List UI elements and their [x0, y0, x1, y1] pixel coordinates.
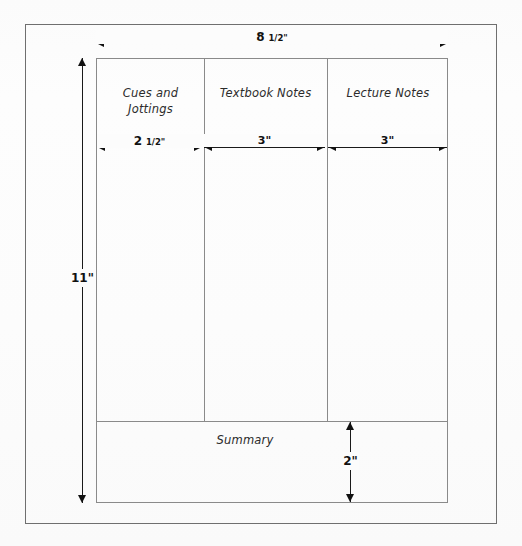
dimension-column-1-width: 2 1/2"	[97, 143, 202, 152]
arrowhead-down-icon	[346, 494, 354, 502]
dimension-label-column-3: 3"	[328, 134, 447, 147]
note-sheet: Cues and Jottings Textbook Notes Lecture…	[96, 58, 448, 503]
column-label-textbook-line-1: Textbook Notes	[204, 85, 327, 101]
dimension-summary-height: 2"	[346, 422, 355, 502]
dimension-whole: 8	[256, 30, 264, 44]
arrowhead-down-icon	[78, 495, 86, 503]
dimension-label-page-height: 11"	[70, 269, 95, 287]
column-label-cues: Cues and Jottings	[97, 85, 204, 117]
dimension-column-3-width: 3"	[328, 143, 447, 152]
column-divider-2	[327, 59, 328, 421]
summary-divider	[97, 421, 447, 422]
column-divider-1	[204, 59, 205, 421]
dimension-line	[204, 147, 325, 148]
dimension-page-width: 8 1/2"	[96, 39, 448, 48]
dimension-page-height: 11"	[78, 58, 87, 503]
dimension-column-2-width: 3"	[204, 143, 325, 152]
arrowhead-up-icon	[78, 58, 86, 66]
dimension-whole: 2	[134, 134, 142, 148]
column-label-cues-line-1: Cues and	[97, 85, 204, 101]
column-label-lecture-line-1: Lecture Notes	[327, 85, 449, 101]
dimension-unit: "	[161, 137, 165, 147]
dimension-label-summary-height: 2"	[342, 452, 359, 470]
diagram-canvas: 8 1/2" 11" Cues and Jottings Textbook No…	[0, 0, 522, 546]
dimension-unit: "	[283, 33, 287, 43]
column-label-lecture: Lecture Notes	[327, 85, 449, 101]
column-label-textbook: Textbook Notes	[204, 85, 327, 101]
dimension-value: 3"	[377, 134, 398, 147]
dimension-label-column-1: 2 1/2"	[97, 134, 202, 148]
dimension-value: 3"	[254, 134, 275, 147]
dimension-line	[328, 147, 447, 148]
dimension-label-page-width: 8 1/2"	[96, 30, 448, 44]
dimension-label-column-2: 3"	[204, 134, 325, 147]
column-label-cues-line-2: Jottings	[97, 101, 204, 117]
dimension-fraction: 1/2	[146, 137, 161, 147]
dimension-fraction: 1/2	[268, 33, 283, 43]
arrowhead-up-icon	[346, 422, 354, 430]
